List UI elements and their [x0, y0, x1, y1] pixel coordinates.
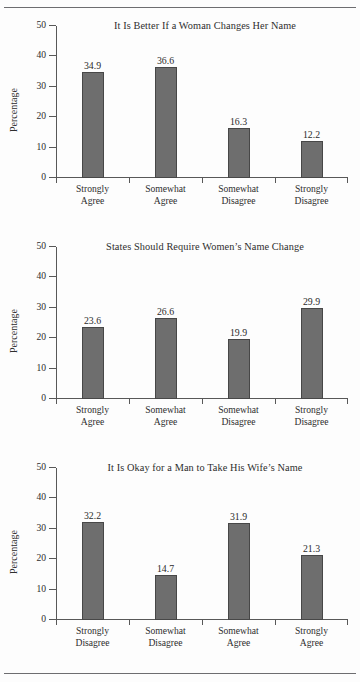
y-axis-tick-label: 20 [36, 552, 46, 563]
chart-panel-stack: It Is Better If a Woman Changes Her Name… [0, 12, 360, 672]
y-axis-tick-label: 10 [36, 583, 46, 594]
category-label-line2: Disagree [218, 195, 259, 207]
category-label-line2: Disagree [145, 637, 186, 649]
x-axis-category-label: SomewhatDisagree [145, 625, 186, 648]
x-axis-category-label: SomewhatDisagree [218, 183, 259, 206]
category-label-line1: Strongly [76, 625, 109, 636]
bar: 36.6 [155, 67, 177, 178]
x-axis-tick [275, 178, 276, 183]
x-axis-tick [347, 620, 348, 625]
category-label-line1: Strongly [295, 183, 328, 194]
x-axis-category-label: StronglyDisagree [294, 183, 328, 206]
category-label-line2: Agree [145, 416, 186, 428]
category-label-line2: Agree [76, 416, 109, 428]
bar: 32.2 [82, 522, 104, 620]
x-axis-tick [202, 620, 203, 625]
y-axis-tick-label: 0 [41, 613, 46, 624]
y-axis-tick: 50 [49, 246, 56, 247]
category-label-line1: Somewhat [218, 625, 259, 636]
y-axis-tick: 10 [49, 147, 56, 148]
category-label-line1: Strongly [76, 404, 109, 415]
y-axis-label-text: Percentage [8, 118, 19, 132]
x-axis-tick [129, 620, 130, 625]
x-axis-category-label: StronglyAgree [295, 625, 328, 648]
x-axis-category-label: StronglyAgree [76, 183, 109, 206]
y-axis-tick: 0 [49, 398, 56, 399]
x-axis-tick [275, 620, 276, 625]
y-axis-tick-label: 50 [36, 19, 46, 30]
y-axis-line [56, 247, 57, 399]
y-axis-tick: 30 [49, 86, 56, 87]
chart-panel: States Should Require Women’s Name Chang… [0, 233, 360, 454]
x-axis-tick [56, 178, 57, 183]
y-axis-tick: 30 [49, 307, 56, 308]
bar-value-label: 34.9 [84, 60, 101, 71]
bar-value-label: 29.9 [303, 296, 320, 307]
x-axis-category-label: SomewhatAgree [145, 404, 186, 427]
y-axis-tick-label: 20 [36, 331, 46, 342]
y-axis-tick-label: 20 [36, 110, 46, 121]
bar: 14.7 [155, 575, 177, 620]
top-divider [4, 7, 356, 8]
y-axis-tick: 20 [49, 558, 56, 559]
chart-panel: It Is Okay for a Man to Take His Wife’s … [0, 454, 360, 672]
category-label-line1: Somewhat [145, 183, 186, 194]
y-axis-tick: 30 [49, 528, 56, 529]
y-axis-label-text: Percentage [8, 339, 19, 353]
y-axis-tick-label: 0 [41, 171, 46, 182]
bar: 31.9 [228, 523, 250, 620]
y-axis-line [56, 468, 57, 620]
x-axis-category-label: StronglyDisagree [75, 625, 109, 648]
category-label-line2: Disagree [294, 195, 328, 207]
category-label-line1: Strongly [76, 183, 109, 194]
y-axis-tick-label: 30 [36, 522, 46, 533]
bar: 19.9 [228, 339, 250, 399]
bar-value-label: 32.2 [84, 510, 101, 521]
category-label-line2: Agree [145, 195, 186, 207]
bar: 26.6 [155, 318, 177, 399]
y-axis-tick: 10 [49, 589, 56, 590]
bar: 23.6 [82, 327, 104, 399]
y-axis-tick-label: 30 [36, 80, 46, 91]
x-axis-category-label: SomewhatAgree [218, 625, 259, 648]
category-label-line2: Agree [295, 637, 328, 649]
category-label-line1: Strongly [295, 625, 328, 636]
bar: 12.2 [301, 141, 323, 178]
y-axis-tick: 0 [49, 177, 56, 178]
category-label-line2: Agree [218, 637, 259, 649]
category-label-line1: Somewhat [145, 625, 186, 636]
bar-value-label: 12.2 [303, 129, 320, 140]
y-axis-tick: 20 [49, 337, 56, 338]
y-axis-tick: 10 [49, 368, 56, 369]
category-label-line1: Somewhat [218, 404, 259, 415]
y-axis-tick: 40 [49, 497, 56, 498]
y-axis-tick-label: 40 [36, 49, 46, 60]
bar-value-label: 31.9 [230, 511, 247, 522]
y-axis-tick-label: 10 [36, 141, 46, 152]
y-axis-tick: 50 [49, 467, 56, 468]
y-axis-tick-label: 50 [36, 461, 46, 472]
y-axis-label: Percentage [2, 56, 13, 70]
category-label-line1: Strongly [295, 404, 328, 415]
y-axis-tick-label: 50 [36, 240, 46, 251]
bar-value-label: 26.6 [157, 306, 174, 317]
category-label-line1: Somewhat [145, 404, 186, 415]
y-axis-tick: 40 [49, 55, 56, 56]
plot-area: 0102030405023.626.619.929.9 [56, 247, 348, 399]
x-axis-tick [275, 399, 276, 404]
y-axis-label-text: Percentage [8, 560, 19, 574]
plot-area: 0102030405032.214.731.921.3 [56, 468, 348, 620]
bottom-divider [4, 673, 356, 674]
bar-value-label: 36.6 [157, 55, 174, 66]
y-axis-line [56, 26, 57, 178]
x-axis-tick [202, 399, 203, 404]
y-axis-tick: 50 [49, 25, 56, 26]
x-axis-tick [347, 178, 348, 183]
bar: 29.9 [301, 308, 323, 399]
y-axis-tick-label: 0 [41, 392, 46, 403]
category-label-line2: Disagree [75, 637, 109, 649]
x-axis-category-label: SomewhatAgree [145, 183, 186, 206]
y-axis-tick-label: 30 [36, 301, 46, 312]
x-axis-tick [129, 399, 130, 404]
bar-value-label: 21.3 [303, 543, 320, 554]
